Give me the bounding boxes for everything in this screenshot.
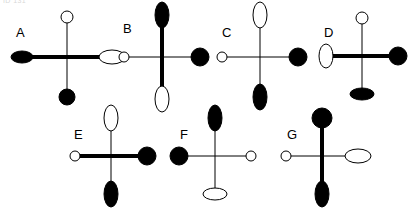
marker-top-open-ellipse: [104, 105, 118, 131]
marker-top-open-circle: [61, 11, 73, 23]
marker-top-open-circle: [356, 12, 368, 24]
figure-f: [155, 94, 275, 218]
marker-top-filled-ellipse: [155, 2, 169, 28]
marker-left-open-ellipse: [319, 44, 333, 68]
figure-e: [51, 94, 171, 218]
figure-label-d: D: [324, 26, 334, 39]
marker-right-filled-circle: [138, 147, 156, 165]
marker-bottom-filled-ellipse: [104, 181, 118, 207]
figure-label-c: C: [222, 26, 232, 39]
cross-diagram-f: [155, 94, 275, 218]
marker-left-open-circle: [119, 52, 129, 62]
cross-diagram-e: [51, 94, 171, 218]
marker-left-open-circle: [281, 151, 291, 161]
marker-right-open-ellipse: [345, 149, 371, 163]
figure-label-e: E: [74, 128, 83, 141]
marker-top-filled-circle: [312, 108, 332, 128]
marker-left-open-circle: [217, 52, 227, 62]
cross-diagram-g: [262, 94, 382, 218]
marker-left-open-circle: [70, 151, 80, 161]
figure-label-a: A: [16, 26, 25, 39]
marker-right-open-circle: [246, 151, 256, 161]
figure-label-g: G: [287, 128, 297, 141]
marker-top-filled-ellipse: [208, 105, 222, 131]
marker-bottom-open-ellipse: [203, 188, 227, 200]
figure-g: [262, 94, 382, 218]
figure-label-f: F: [180, 128, 188, 141]
marker-left-filled-ellipse: [11, 51, 33, 63]
marker-bottom-filled-ellipse: [315, 181, 329, 207]
marker-left-filled-circle: [170, 147, 188, 165]
figure-label-b: B: [123, 22, 132, 35]
marker-right-filled-circle: [389, 47, 407, 65]
marker-top-open-ellipse: [253, 2, 267, 28]
